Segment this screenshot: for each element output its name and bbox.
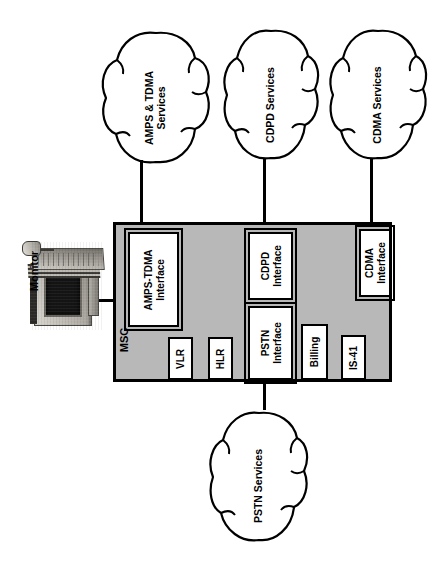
monitor-screen <box>44 273 82 317</box>
mouse <box>22 241 41 256</box>
cloud-cdma-services: CDMA Services <box>328 26 428 184</box>
component-is-41[interactable]: IS-41 <box>341 335 366 380</box>
component-vlr[interactable]: VLR <box>168 337 193 380</box>
component-pstn-interface[interactable]: PSTN Interface <box>248 306 293 380</box>
component-label-cdma-interface: CDMA Interface <box>364 231 387 295</box>
component-cdpd-interface[interactable]: CDPD Interface <box>248 232 293 300</box>
connector-cdma <box>370 158 373 224</box>
component-label-billing: Billing <box>309 326 321 378</box>
msc-container: MSC AMPS-TDMA Interface VLR HLR CDPD Int… <box>113 222 392 382</box>
connector-cdpd <box>263 158 266 224</box>
cloud-amps-tdma-services: AMPS & TDMA Services <box>100 28 212 188</box>
cloud-cdpd-services: CDPD Services <box>222 26 320 184</box>
component-cdma-interface[interactable]: CDMA Interface <box>359 229 391 297</box>
component-hlr[interactable]: HLR <box>208 337 233 380</box>
diagram-canvas: AMPS & TDMA Services CDPD Services CDMA … <box>0 0 437 577</box>
component-label-hlr: HLR <box>215 339 227 379</box>
component-label-is-41: IS-41 <box>348 337 360 379</box>
connector-pstn <box>263 380 266 410</box>
component-label-pstn-interface: PSTN Interface <box>259 308 282 378</box>
component-billing[interactable]: Billing <box>301 324 328 380</box>
component-label-amps-tdma-interface: AMPS-TDMA Interface <box>142 235 165 325</box>
monitor-image <box>30 242 102 330</box>
component-amps-tdma-interface[interactable]: AMPS-TDMA Interface <box>128 232 179 327</box>
cloud-pstn-services: PSTN Services <box>207 408 311 564</box>
component-label-vlr: VLR <box>175 339 187 379</box>
keyboard <box>31 248 105 270</box>
connector-amps-tdma <box>140 160 143 224</box>
component-label-cdpd-interface: CDPD Interface <box>259 234 282 298</box>
